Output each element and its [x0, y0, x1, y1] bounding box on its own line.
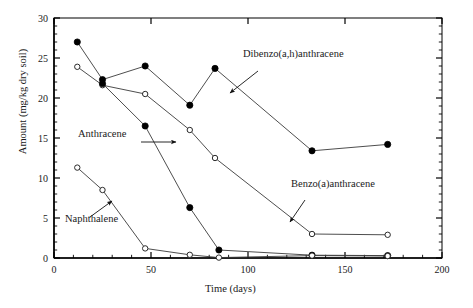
data-point-filled	[142, 63, 148, 69]
data-point-filled	[385, 141, 391, 147]
data-point-filled	[216, 247, 222, 253]
series-benzo-a-anthracene	[75, 64, 391, 237]
data-point-open	[385, 253, 390, 258]
data-point-open	[212, 155, 217, 160]
series-anthracene	[99, 81, 390, 259]
y-axis-tick-label: 0	[43, 253, 48, 264]
data-point-filled	[99, 81, 105, 87]
annotation-label-anthracene: Anthracene	[78, 128, 127, 139]
data-point-open	[309, 231, 314, 236]
data-point-filled	[187, 205, 193, 211]
x-axis-tick-label: 0	[52, 264, 57, 275]
x-axis-title: Time (days)	[205, 283, 256, 294]
data-point-filled	[74, 39, 80, 45]
chart-svg: 051015202530050100150200Dibenzo(a,h)anth…	[0, 0, 473, 308]
y-axis-tick-label: 15	[38, 133, 48, 144]
data-point-filled	[142, 123, 148, 129]
x-axis-tick-label: 50	[146, 264, 156, 275]
series-line	[103, 84, 388, 256]
data-point-open	[75, 64, 80, 69]
data-point-open	[100, 187, 105, 192]
y-axis-tick-label: 5	[43, 213, 48, 224]
data-point-open	[216, 255, 221, 260]
annotation-arrow-dibenzo-a-h-anthracene	[230, 71, 258, 93]
annotation-label-benzo-a-anthracene: Benzo(a)anthracene	[291, 178, 375, 190]
data-point-open	[309, 253, 314, 258]
data-point-open	[75, 165, 80, 170]
annotation-label-naphthalene: Naphthalene	[65, 213, 118, 224]
data-point-open	[385, 232, 390, 237]
data-point-open	[187, 252, 192, 257]
y-axis-title: Amount (mg/kg dry soil)	[17, 36, 28, 168]
y-axis-tick-label: 10	[38, 173, 48, 184]
y-axis-tick-label: 30	[38, 13, 48, 24]
x-axis-tick-label: 200	[435, 264, 450, 275]
data-point-filled	[187, 102, 193, 108]
y-axis-tick-label: 25	[38, 53, 48, 64]
data-point-open	[187, 127, 192, 132]
series-line	[77, 67, 387, 235]
data-point-filled	[309, 148, 315, 154]
y-axis-tick-label: 20	[38, 93, 48, 104]
data-point-open	[142, 91, 147, 96]
data-point-open	[142, 246, 147, 251]
annotation-arrow-benzo-a-anthracene	[290, 200, 305, 222]
x-axis-tick-label: 100	[241, 264, 256, 275]
x-axis-tick-label: 150	[338, 264, 353, 275]
data-point-filled	[212, 65, 218, 71]
annotation-label-dibenzo-a-h-anthracene: Dibenzo(a,h)anthracene	[243, 48, 344, 60]
